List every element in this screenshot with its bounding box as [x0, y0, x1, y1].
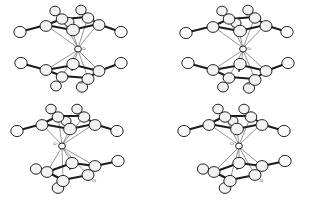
upper-ring-atoms [207, 13, 272, 38]
structure-bottom-left: C1 Cr [0, 100, 165, 200]
atom-sphere [115, 57, 127, 68]
atom-sphere [67, 24, 80, 36]
atom-sphere [82, 13, 94, 23]
upper-ring-group: C1 [180, 5, 293, 48]
atom-sphere [57, 175, 69, 186]
ring-atom-label: C1 [243, 114, 247, 118]
atom-sphere [11, 125, 23, 136]
atom-sphere [249, 13, 261, 23]
structure-top-left: C1 Cr [0, 0, 165, 100]
atom-sphere [219, 112, 231, 122]
lower-ring-atoms [41, 157, 101, 187]
atom-sphere [89, 161, 101, 172]
atom-sphere [256, 120, 268, 131]
structure-bottom-right: C1 Cr [165, 100, 329, 200]
ring-atom-label: C1 [76, 114, 80, 118]
metal-atom [59, 143, 66, 149]
atom-sphere [260, 66, 272, 77]
atom-sphere [41, 167, 53, 178]
lower-ring-group: C6 [182, 57, 294, 94]
atom-sphere [234, 25, 247, 37]
upper-ring-atoms [40, 13, 105, 37]
atom-sphere [223, 14, 235, 24]
atom-sphere [66, 157, 78, 168]
atom-sphere [93, 66, 105, 77]
atom-sphere [89, 120, 101, 131]
atom-sphere [82, 74, 94, 85]
atom-sphere [207, 22, 219, 33]
atom-sphere [56, 14, 68, 24]
figure-canvas: C1 Cr [0, 0, 329, 200]
atom-sphere [52, 112, 64, 122]
atom-sphere [56, 72, 68, 82]
metal-atom [240, 46, 247, 52]
atom-sphere [233, 157, 245, 168]
atom-sphere [112, 155, 124, 166]
metal-atom-label: Cr [247, 47, 252, 51]
atom-sphere [207, 65, 219, 76]
ring-atom-label: C6 [246, 82, 250, 86]
atom-sphere [279, 155, 291, 166]
atom-sphere [218, 82, 229, 92]
ring-atom-label: C1 [246, 15, 250, 19]
metal-atom-label: Cr [230, 142, 235, 146]
atom-sphere [256, 161, 268, 172]
lower-ring-atoms [207, 58, 272, 86]
atom-sphere [278, 125, 290, 136]
ring-atom-label: C6 [79, 81, 83, 85]
lower-ring-atoms [40, 58, 105, 85]
atom-sphere [64, 123, 77, 135]
atom-sphere [182, 57, 194, 68]
atom-sphere [40, 65, 52, 76]
atom-sphere [282, 57, 294, 68]
atom-sphere [111, 125, 123, 136]
ring-atom-label: C6 [92, 179, 96, 183]
atom-sphere [14, 26, 26, 37]
atom-sphere [260, 21, 272, 32]
atom-sphere [249, 75, 261, 86]
atom-sphere [203, 120, 215, 131]
atom-sphere [224, 175, 236, 186]
atom-sphere [40, 21, 52, 32]
metal-atom [236, 143, 243, 149]
upper-ring-group: C1 [14, 5, 127, 48]
atom-sphere [36, 120, 48, 131]
ring-atom-label: C6 [259, 179, 263, 183]
lower-ring-group: C6 [197, 155, 291, 194]
atom-sphere [178, 125, 190, 136]
atom-sphere [231, 123, 244, 135]
atom-sphere [15, 57, 27, 68]
atom-sphere [67, 58, 79, 69]
atom-sphere [115, 26, 127, 37]
lower-ring-group: C6 [30, 155, 124, 194]
atom-sphere [223, 73, 235, 83]
lower-ring-atoms [208, 157, 268, 187]
atom-sphere [208, 167, 220, 178]
upper-ring-group: C1 [178, 104, 290, 145]
metal-atom [75, 46, 82, 52]
atom-sphere [234, 58, 246, 69]
atom-sphere [93, 20, 105, 31]
metal-atom-label: Cr [82, 47, 87, 51]
metal-atom-label: Cr [53, 142, 58, 146]
lower-ring-group: C6 [15, 57, 127, 93]
atom-sphere [180, 27, 192, 38]
atom-sphere [51, 81, 62, 91]
structure-top-right: C1 Cr [165, 0, 329, 100]
ring-atom-label: C1 [79, 14, 83, 18]
atom-sphere [281, 26, 293, 37]
atom-sphere [30, 164, 41, 174]
upper-ring-group: C1 [11, 104, 123, 145]
atom-sphere [197, 164, 208, 174]
